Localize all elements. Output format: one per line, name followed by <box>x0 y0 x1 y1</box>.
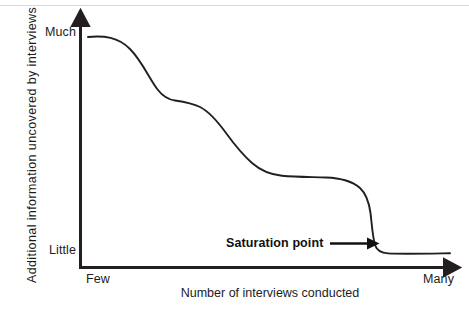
x-axis-title: Number of interviews conducted <box>80 286 460 300</box>
x-axis-tick-label-many: Many <box>392 272 454 286</box>
chart-figure: Much Little Few Many Number of interview… <box>0 0 469 315</box>
chart-plot-area <box>0 0 469 315</box>
x-axis-tick-label-few: Few <box>86 272 110 286</box>
y-axis-title: Additional information uncovered by inte… <box>25 0 39 290</box>
saturation-point-annotation-label: Saturation point <box>226 236 323 250</box>
saturation-curve <box>88 37 450 254</box>
